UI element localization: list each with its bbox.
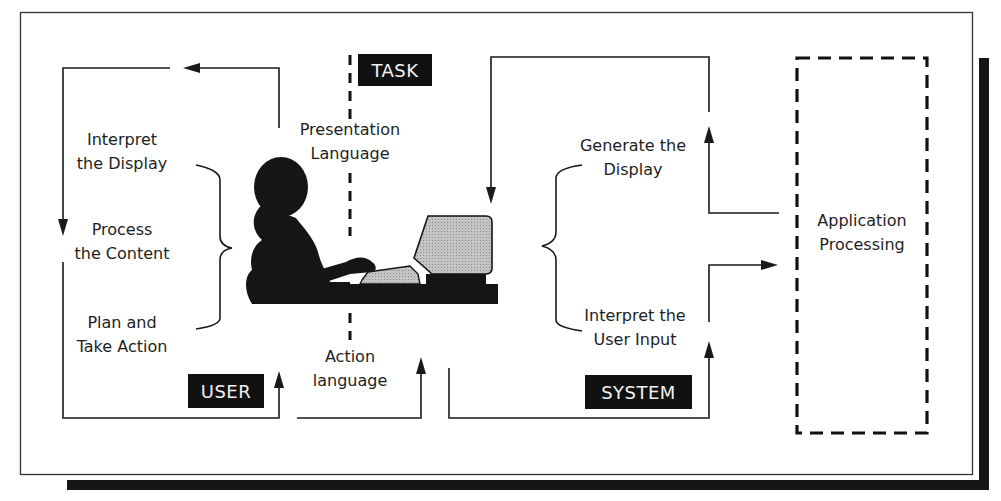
- computer-terminal-icon: [360, 216, 492, 284]
- user-silhouette-icon: [246, 157, 376, 304]
- label-line: Presentation: [288, 118, 412, 142]
- arrow-up-icon: [416, 357, 426, 374]
- application-processing-label: Application Processing: [800, 209, 924, 257]
- arrow-up-icon: [274, 371, 284, 388]
- system-step-interpret-input: Interpret the User Input: [570, 304, 700, 352]
- label-line: Action: [300, 345, 400, 369]
- label-line: Interpret: [62, 128, 182, 152]
- label-line: Generate the: [568, 134, 698, 158]
- label-line: Processing: [800, 233, 924, 257]
- arrow-up-icon: [704, 341, 714, 358]
- label-line: Application: [800, 209, 924, 233]
- frame-shadow-right: [979, 58, 989, 490]
- system-tag: SYSTEM: [585, 375, 692, 409]
- label-line: the Display: [62, 152, 182, 176]
- user-step-interpret-display: Interpret the Display: [62, 128, 182, 176]
- label-line: Language: [288, 142, 412, 166]
- action-language-label: Action language: [300, 345, 400, 393]
- label-line: Plan and: [62, 311, 182, 335]
- label-line: Process: [62, 218, 182, 242]
- user-brace-icon: [196, 165, 232, 329]
- user-step-plan-action: Plan and Take Action: [62, 311, 182, 359]
- user-tag: USER: [188, 374, 264, 408]
- presentation-language-label: Presentation Language: [288, 118, 412, 166]
- arrow-down-icon: [486, 187, 496, 204]
- label-line: Display: [568, 158, 698, 182]
- arrow-up-icon: [704, 126, 714, 143]
- arrow-right-icon: [761, 260, 778, 270]
- label-line: the Content: [62, 242, 182, 266]
- system-step-generate-display: Generate the Display: [568, 134, 698, 182]
- label-line: User Input: [570, 328, 700, 352]
- frame-shadow-bottom: [67, 480, 989, 490]
- desk-icon: [350, 284, 498, 304]
- arrow-left-icon: [183, 63, 200, 73]
- label-line: Interpret the: [570, 304, 700, 328]
- user-step-process-content: Process the Content: [62, 218, 182, 266]
- task-tag: TASK: [358, 54, 432, 86]
- label-line: Take Action: [62, 335, 182, 359]
- label-line: language: [300, 369, 400, 393]
